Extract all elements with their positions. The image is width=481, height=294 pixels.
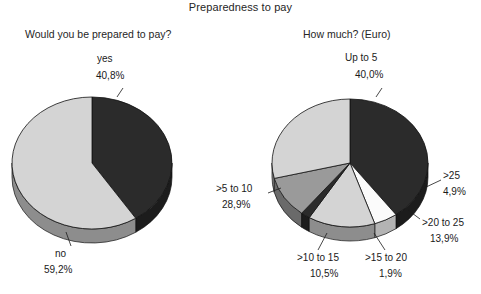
label-no-value: 59,2%	[44, 264, 72, 275]
leader-up-to-5	[376, 88, 382, 97]
label-gt20to25-category: >20 to 25	[422, 217, 464, 228]
label-gt10to15-value: 10,5%	[310, 268, 338, 279]
page-title: Preparedness to pay	[0, 1, 481, 13]
pie-charts-svg	[0, 0, 481, 294]
right-pie-chart	[272, 99, 428, 241]
label-no-category: no	[55, 248, 66, 259]
left-pie-chart	[12, 97, 172, 243]
right-chart-subtitle: How much? (Euro)	[303, 28, 391, 40]
label-gt15to20-category: >15 to 20	[365, 252, 407, 263]
label-gt25-value: 4,9%	[443, 186, 466, 197]
label-gt10to15-category: >10 to 15	[297, 252, 339, 263]
figure-canvas: Preparedness to pay Would you be prepare…	[0, 0, 481, 294]
label-up-to-5-category: Up to 5	[345, 52, 377, 63]
label-gt5to10-category: >5 to 10	[216, 183, 252, 194]
label-yes-value: 40,8%	[96, 70, 124, 81]
left-chart-subtitle: Would you be prepared to pay?	[25, 28, 171, 40]
label-gt5to10-value: 28,9%	[222, 199, 250, 210]
label-gt25-category: >25	[443, 170, 460, 181]
label-yes-category: yes	[97, 53, 113, 64]
leader-yes	[117, 88, 123, 97]
label-gt20to25-value: 13,9%	[430, 233, 458, 244]
label-gt15to20-value: 1,9%	[379, 268, 402, 279]
label-up-to-5-value: 40,0%	[355, 69, 383, 80]
